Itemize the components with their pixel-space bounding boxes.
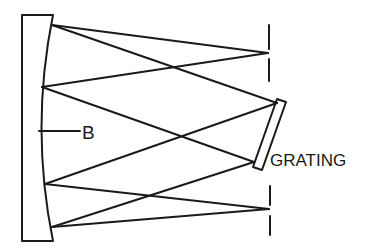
grating-label: GRATING	[270, 151, 346, 170]
spectrometer-diagram: B GRATING	[0, 0, 385, 252]
mirror-label: B	[82, 122, 95, 143]
ray-paths	[42, 25, 277, 227]
mirror-b	[22, 15, 53, 241]
